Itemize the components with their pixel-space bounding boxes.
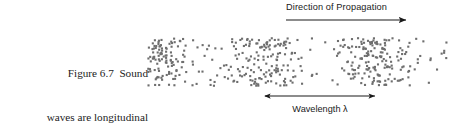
caption-line: Figure 6.7 Sound <box>8 66 148 81</box>
propagation-label: Direction of Propagation <box>286 2 387 12</box>
wavelength-label: Wavelength λ <box>262 104 378 114</box>
figure-caption: Figure 6.7 Sound waves are longitudinal … <box>8 37 148 127</box>
figure-sound-waves: Direction of Propagation Wavelength λ Fi… <box>0 0 456 127</box>
caption-line: waves are longitudinal <box>8 110 148 125</box>
